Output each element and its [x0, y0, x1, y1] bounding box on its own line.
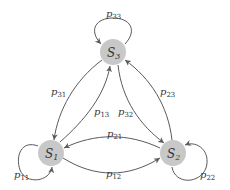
label-p22: p22: [200, 169, 215, 182]
node-s2[interactable]: S2: [160, 140, 186, 166]
node-s1[interactable]: S1: [38, 140, 64, 166]
label-p23: p23: [160, 86, 175, 99]
node-s3[interactable]: S3: [100, 39, 126, 65]
label-p31: p31: [51, 86, 66, 99]
label-p13: p13: [94, 106, 109, 119]
label-p11: p11: [14, 169, 29, 182]
edge-p32: [118, 65, 164, 143]
label-p32: p32: [118, 106, 133, 119]
label-p21: p21: [107, 128, 122, 141]
edge-p13: [60, 66, 110, 142]
label-p12: p12: [106, 168, 121, 181]
markov-diagram: S3 S1 S2 p33 p31 p13 p32 p23 p21 p12 p11…: [0, 0, 230, 190]
edge-p23: [125, 60, 172, 140]
edge-p31: [54, 60, 102, 140]
label-p33: p33: [106, 8, 121, 21]
